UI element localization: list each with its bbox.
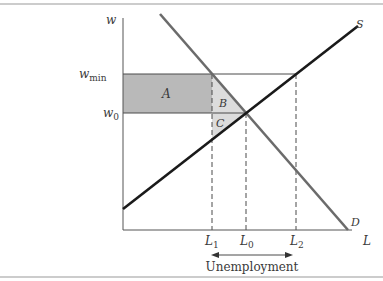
region-b-label: B [218, 97, 227, 110]
y-axis-label: w [106, 13, 117, 27]
region-c-label: C [216, 117, 225, 130]
w0-label: w0 [103, 106, 119, 122]
minimum-wage-diagram: w L wmin w0 L1 L0 L2 S D A B C Unemploym… [0, 0, 383, 281]
l0-label: L0 [239, 234, 254, 250]
region-a-label: A [161, 87, 171, 101]
demand-label: D [350, 216, 360, 229]
demand-curve [160, 14, 348, 230]
arrow-right-head-icon [285, 252, 293, 258]
l2-label: L2 [289, 234, 304, 250]
unemployment-label: Unemployment [206, 260, 299, 274]
l1-label: L1 [204, 234, 219, 250]
supply-label: S [356, 18, 364, 31]
supply-curve [123, 26, 358, 209]
wmin-label: wmin [79, 67, 107, 83]
arrow-left-head-icon [211, 252, 219, 258]
x-axis-label: L [362, 234, 371, 248]
